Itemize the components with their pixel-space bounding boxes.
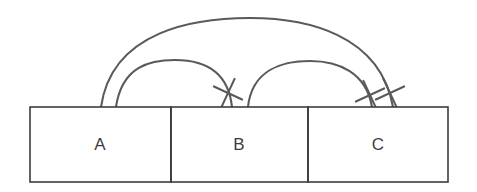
segment-label-b: B <box>233 135 244 154</box>
cross-on-arc-b-to-c <box>356 81 384 109</box>
arc-group <box>101 18 393 107</box>
cross-on-arc-a-to-c <box>376 79 404 107</box>
cross-stroke-2 <box>356 81 384 109</box>
segment-label-a: A <box>94 135 106 154</box>
segment-label-c: C <box>372 135 384 154</box>
diagram-canvas: A B C <box>0 0 477 192</box>
arc-a-to-b <box>116 60 232 107</box>
cross-stroke-2 <box>214 79 242 107</box>
cross-stroke-2 <box>376 79 404 107</box>
sequence-diagram: A B C <box>0 0 477 192</box>
arc-a-to-c <box>101 18 393 107</box>
arc-b-to-c <box>248 61 372 107</box>
cross-mark-group <box>214 79 404 109</box>
cross-on-arc-a-to-b <box>214 79 242 107</box>
